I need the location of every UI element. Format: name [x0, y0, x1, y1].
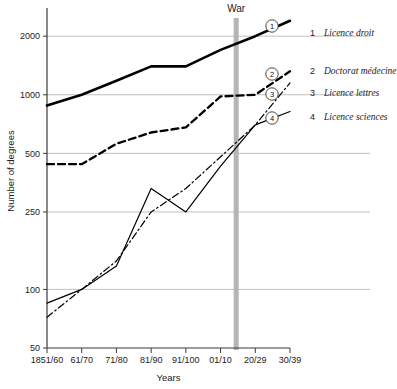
x-tick-label: 30/39: [279, 355, 302, 365]
chart-container: War50100250500100020001851/6061/7071/808…: [0, 0, 397, 389]
legend-number-2: 2: [310, 66, 315, 76]
series-line-2: [47, 71, 290, 164]
series-marker-label-2: 2: [270, 70, 274, 79]
legend-number-4: 4: [310, 112, 315, 122]
war-annotation-label: War: [227, 3, 246, 14]
legend-label-4: Licence sciences: [323, 112, 388, 122]
x-tick-label: 01/10: [209, 355, 232, 365]
series-marker-label-3: 3: [270, 90, 274, 99]
series-line-4: [47, 112, 290, 304]
series-marker-label-4: 4: [270, 114, 274, 123]
x-axis-title: Years: [157, 372, 181, 383]
y-axis-title: Number of degrees: [5, 130, 16, 212]
series-marker-label-1: 1: [270, 22, 274, 31]
legend-label-3: Licence lettres: [323, 88, 380, 98]
legend-label-2: Doctorat médecine: [323, 66, 397, 76]
x-tick-label: 20/29: [244, 355, 267, 365]
war-period-band: [234, 18, 239, 350]
y-tick-label: 2000: [20, 31, 40, 41]
legend-number-1: 1: [310, 28, 315, 38]
x-tick-label: 91/100: [172, 355, 200, 365]
y-tick-label: 100: [25, 285, 40, 295]
x-tick-label: 1851/60: [31, 355, 64, 365]
legend-number-3: 3: [310, 88, 315, 98]
legend-label-1: Licence droit: [323, 28, 374, 38]
degrees-log-line-chart: War50100250500100020001851/6061/7071/808…: [0, 0, 397, 389]
x-tick-label: 71/80: [105, 355, 128, 365]
y-tick-label: 1000: [20, 90, 40, 100]
x-tick-label: 61/70: [70, 355, 93, 365]
y-tick-label: 50: [30, 343, 40, 353]
y-tick-label: 250: [25, 207, 40, 217]
series-line-1: [47, 21, 290, 106]
x-tick-label: 81/90: [140, 355, 163, 365]
y-tick-label: 500: [25, 149, 40, 159]
